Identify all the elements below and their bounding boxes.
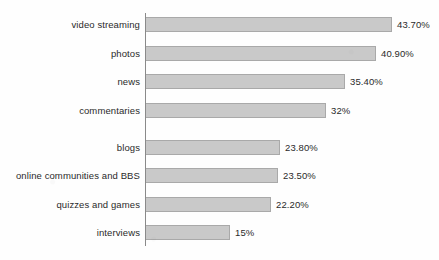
value-label: 32% — [331, 103, 350, 119]
bar-row: blogs 23.80% — [0, 140, 439, 156]
category-label: quizzes and games — [56, 197, 140, 213]
category-label: photos — [111, 46, 140, 62]
value-label: 23.80% — [285, 140, 318, 156]
bar-row: interviews 15% — [0, 225, 439, 241]
category-label: interviews — [97, 225, 140, 241]
bar-row: news 35.40% — [0, 74, 439, 90]
value-label: 40.90% — [381, 46, 414, 62]
bar-video-streaming — [146, 17, 392, 32]
bar-interviews — [146, 225, 230, 240]
bar-row: photos 40.90% — [0, 46, 439, 62]
value-label: 23.50% — [283, 168, 316, 184]
bar-row: quizzes and games 22.20% — [0, 197, 439, 213]
bar-row: video streaming 43.70% — [0, 17, 439, 33]
category-label: commentaries — [79, 103, 140, 119]
bar-row: online communities and BBS 23.50% — [0, 168, 439, 184]
value-label: 15% — [235, 225, 254, 241]
bar-row: commentaries 32% — [0, 103, 439, 119]
category-label: online communities and BBS — [16, 168, 140, 184]
category-label: news — [117, 74, 140, 90]
bar-quizzes-and-games — [146, 197, 271, 212]
bar-commentaries — [146, 103, 326, 118]
value-label: 22.20% — [276, 197, 309, 213]
category-label: video streaming — [71, 17, 140, 33]
bar-news — [146, 74, 345, 89]
category-label: blogs — [117, 140, 140, 156]
bar-online-communities-and-bbs — [146, 168, 278, 183]
bar-chart: video streaming 43.70% photos 40.90% new… — [0, 0, 439, 260]
value-label: 35.40% — [350, 74, 383, 90]
value-label: 43.70% — [397, 17, 430, 33]
bar-photos — [146, 46, 376, 61]
bar-blogs — [146, 140, 280, 155]
